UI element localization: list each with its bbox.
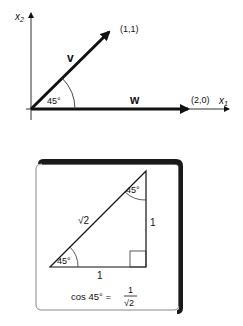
vertical-side-label: 1 (150, 217, 156, 228)
vector-v-label: v (67, 51, 74, 65)
x2-axis-label: x2 (14, 11, 24, 23)
formula-denominator: √2 (124, 298, 134, 308)
vector-w-tip-label: (2,0) (191, 95, 210, 105)
vector-w-label: w (129, 93, 140, 107)
triangle-card: 45° 45° √2 1 1 cos 45° = 1 √2 (36, 161, 181, 312)
angle-arc (62, 78, 75, 109)
diagram-canvas: x2 x1 w (2,0) v (1,1) 45° 45° 4 (0, 0, 243, 326)
base-label: 1 (97, 270, 103, 281)
x1-axis-label: x1 (218, 95, 228, 107)
card-border (36, 164, 179, 310)
top-angle-label: 45° (126, 185, 140, 195)
formula-lhs: cos 45° = (71, 291, 111, 302)
vector-v-tip-label: (1,1) (120, 24, 139, 34)
bottom-angle-label: 45° (57, 256, 71, 266)
formula-numerator: 1 (128, 285, 133, 295)
angle-label: 45° (47, 96, 61, 106)
hypotenuse-label: √2 (78, 215, 89, 226)
vector-v (31, 32, 109, 109)
vector-plot: x2 x1 w (2,0) v (1,1) 45° (14, 11, 229, 120)
